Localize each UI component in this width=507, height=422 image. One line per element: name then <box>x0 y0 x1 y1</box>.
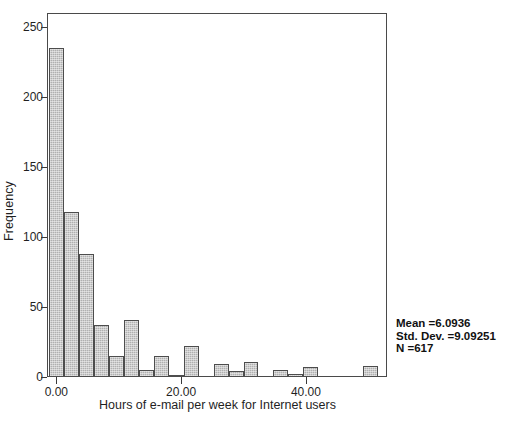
y-axis-tick-mark <box>41 27 47 28</box>
y-axis-tick-labels: 050100150200250 <box>13 0 43 422</box>
y-axis-tick-mark <box>41 97 47 98</box>
histogram-figure: Frequency 050100150200250 Hours of e-mai… <box>0 0 507 422</box>
y-axis-tick-label: 200 <box>13 91 43 103</box>
y-axis-tick-mark <box>41 237 47 238</box>
histogram-bar <box>79 254 94 377</box>
x-axis-tick-mark <box>181 377 182 384</box>
x-axis-tick-label: 20.00 <box>151 386 211 398</box>
histogram-bar <box>109 356 124 377</box>
histogram-bar <box>288 374 303 377</box>
histogram-bar <box>363 366 378 377</box>
x-axis-tick-mark <box>306 377 307 384</box>
histogram-bar <box>94 325 109 377</box>
y-axis-tick-label: 100 <box>13 231 43 243</box>
histogram-bar <box>273 370 288 377</box>
y-axis-tick-label: 150 <box>13 161 43 173</box>
y-axis-tick-mark <box>41 377 47 378</box>
x-axis-tick-label: 40.00 <box>276 386 336 398</box>
histogram-bar <box>184 346 199 377</box>
histogram-bar <box>154 356 169 377</box>
stats-annotation: Mean =6.0936 Std. Dev. =9.09251 N =617 <box>396 317 496 355</box>
stats-std-dev: Std. Dev. =9.09251 <box>396 330 496 343</box>
histogram-bar <box>49 48 64 377</box>
histogram-bar <box>244 362 259 377</box>
x-axis-label: Hours of e-mail per week for Internet us… <box>47 398 388 413</box>
y-axis-tick-label: 50 <box>13 301 43 313</box>
histogram-bar <box>303 367 318 377</box>
histogram-bar <box>124 320 139 377</box>
histogram-bar <box>229 371 244 377</box>
y-axis-tick-label: 250 <box>13 21 43 33</box>
x-axis-tick-label: 0.00 <box>26 386 86 398</box>
x-axis-tick-mark <box>56 377 57 384</box>
stats-n: N =617 <box>396 342 496 355</box>
plot-area <box>47 13 387 377</box>
histogram-bar <box>214 364 229 377</box>
y-axis-tick-mark <box>41 167 47 168</box>
histogram-bar <box>64 212 79 377</box>
stats-mean: Mean =6.0936 <box>396 317 496 330</box>
y-axis-tick-label: 0 <box>13 371 43 383</box>
y-axis-tick-mark <box>41 307 47 308</box>
histogram-bar <box>139 370 154 377</box>
